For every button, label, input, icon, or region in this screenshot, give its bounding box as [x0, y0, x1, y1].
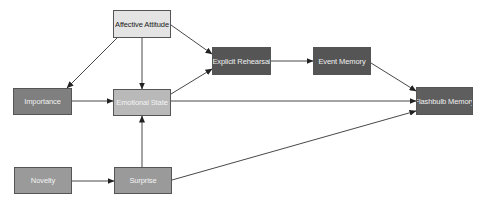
node-importance: Importance	[13, 88, 72, 115]
node-event-memory: Event Memory	[313, 47, 371, 75]
edge-event-to-flashbulb	[371, 63, 416, 91]
edge-surprise-to-flashbulb	[172, 111, 416, 180]
node-label: Explicit Rehearsal	[212, 57, 270, 66]
flashbulb-memory-diagram: Affective Attitude Explicit Rehearsal Ev…	[0, 0, 488, 210]
node-label: Affective Attitude	[115, 20, 169, 29]
node-label: Flashbulb Memory	[416, 97, 473, 106]
node-novelty: Novelty	[14, 167, 72, 194]
node-label: Surprise	[129, 176, 156, 185]
node-emotional-state: Emotional State	[113, 89, 171, 116]
edge-emotional-to-rehearsal	[171, 69, 212, 94]
node-label: Importance	[24, 97, 61, 106]
edges-layer	[0, 0, 488, 210]
node-label: Novelty	[31, 176, 55, 185]
node-label: Emotional State	[116, 98, 167, 107]
node-explicit-rehearsal: Explicit Rehearsal	[212, 47, 271, 75]
edge-affective-to-rehearsal	[171, 25, 212, 54]
node-affective-attitude: Affective Attitude	[113, 10, 171, 38]
edge-affective-to-importance	[67, 38, 117, 88]
node-label: Event Memory	[318, 57, 365, 66]
node-surprise: Surprise	[114, 167, 172, 194]
node-flashbulb-memory: Flashbulb Memory	[416, 87, 473, 115]
